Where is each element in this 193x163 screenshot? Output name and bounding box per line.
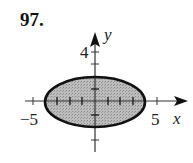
y-max-label: 4	[80, 43, 89, 62]
y-axis-label: y	[102, 25, 112, 44]
ellipse-plot: −5 5 x 4 y	[0, 0, 193, 163]
x-min-label: −5	[20, 110, 38, 129]
x-max-label: 5	[151, 110, 160, 129]
x-axis-label: x	[172, 109, 181, 128]
